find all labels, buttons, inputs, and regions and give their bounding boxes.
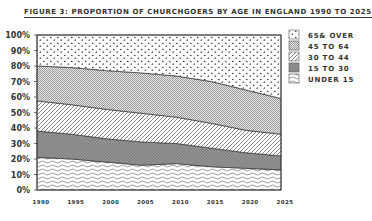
legend-label: 15 to 30 (308, 65, 349, 73)
x-tick-label: 2015 (207, 199, 224, 205)
legend-swatch (289, 30, 299, 39)
legend-label: 30 to 44 (308, 54, 349, 62)
legend-swatch (289, 41, 299, 50)
y-tick-label: 30% (11, 140, 30, 149)
y-tick-label: 100% (5, 31, 30, 40)
x-tick-label: 1990 (33, 199, 50, 205)
y-tick-label: 60% (11, 93, 30, 102)
plot-areas (37, 35, 281, 190)
legend: 65& over45 to 6430 to 4415 to 30Under 15 (289, 30, 354, 84)
x-tick-label: 2005 (137, 199, 154, 205)
legend-swatch (289, 74, 299, 83)
x-tick-label: 2025 (277, 199, 294, 205)
x-tick-label: 2020 (242, 199, 259, 205)
x-tick-label: 2000 (102, 199, 119, 205)
legend-label: 45 to 64 (308, 43, 349, 51)
legend-label: Under 15 (308, 76, 354, 84)
legend-swatch (289, 52, 299, 61)
x-tick-label: 2010 (172, 199, 189, 205)
y-tick-label: 40% (11, 124, 30, 133)
y-tick-label: 20% (11, 155, 30, 164)
legend-swatch (289, 63, 299, 72)
y-tick-label: 90% (11, 47, 30, 56)
y-tick-label: 70% (11, 78, 30, 87)
y-tick-label: 50% (11, 109, 30, 118)
y-tick-label: 0% (16, 186, 30, 195)
y-tick-label: 10% (11, 171, 30, 180)
legend-label: 65& over (308, 32, 354, 40)
y-tick-label: 80% (11, 62, 30, 71)
x-tick-label: 1995 (67, 199, 84, 205)
